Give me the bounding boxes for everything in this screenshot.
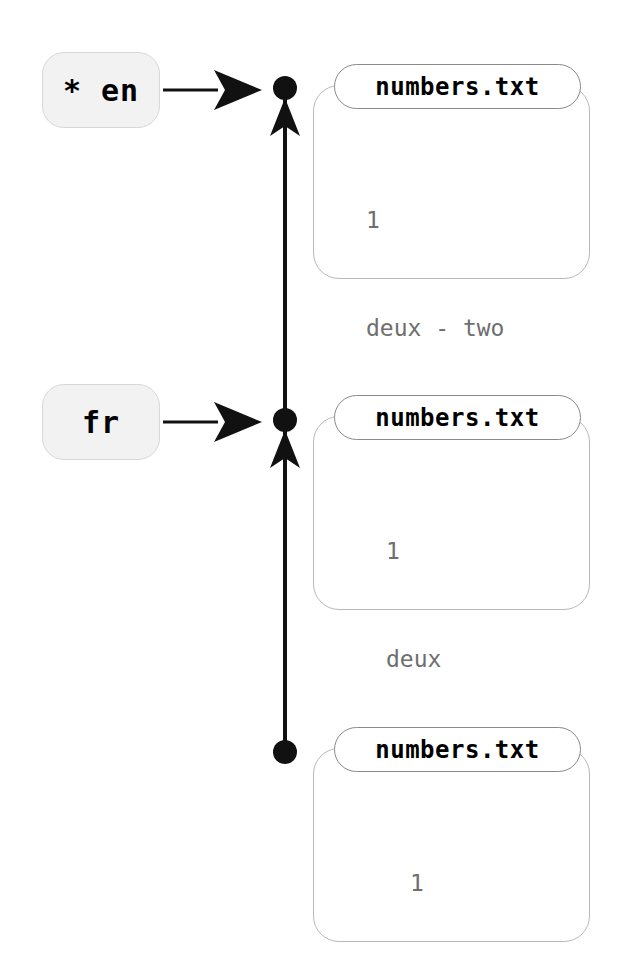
arrow-right-icon: [214, 70, 262, 110]
file-card-root-commit[interactable]: numbers.txt 1 2 3: [313, 748, 590, 942]
parent-arrowhead-middle-icon: [270, 430, 300, 468]
file-title: numbers.txt: [334, 395, 581, 440]
commit-dot-top-icon[interactable]: [273, 76, 297, 100]
branch-label-text: * en: [63, 73, 139, 108]
branch-label-text: fr: [82, 405, 120, 440]
parent-arrowhead-top-icon: [270, 98, 300, 136]
file-line: deux: [386, 641, 591, 677]
commit-dot-root-icon[interactable]: [273, 740, 297, 764]
branch-label-en[interactable]: * en: [42, 52, 160, 128]
file-line: deux - two: [366, 310, 591, 346]
file-line: 1: [366, 202, 591, 238]
file-title: numbers.txt: [334, 727, 581, 772]
diagram-canvas: * en fr numbers.txt 1 deux - two 3 numbe…: [0, 0, 622, 979]
arrow-right-icon: [214, 402, 262, 442]
commit-dot-middle-icon[interactable]: [273, 408, 297, 432]
file-title: numbers.txt: [334, 64, 581, 109]
file-line: 1: [410, 865, 591, 901]
branch-label-fr[interactable]: fr: [42, 384, 160, 460]
file-card-middle-commit[interactable]: numbers.txt 1 deux 3: [313, 416, 590, 610]
file-contents: 1 2 3: [314, 793, 591, 979]
file-card-top-commit[interactable]: numbers.txt 1 deux - two 3: [313, 85, 590, 279]
file-line: 1: [386, 533, 591, 569]
file-line: 2: [410, 973, 591, 979]
